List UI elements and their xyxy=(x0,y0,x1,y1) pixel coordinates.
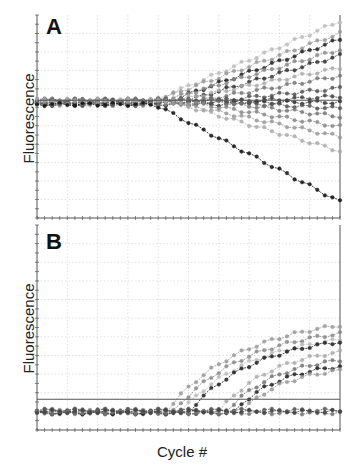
panel-b-y-axis-label: Fluorescence xyxy=(20,279,37,379)
panel-a-y-axis-label: Fluorescence xyxy=(20,69,37,169)
panel-b-plot xyxy=(35,225,342,432)
panel-a-label: A xyxy=(46,14,62,40)
x-axis-label: Cycle # xyxy=(157,443,207,460)
panel-a-plot xyxy=(35,15,342,220)
panel-a-grid xyxy=(37,15,340,218)
panel-b-label: B xyxy=(46,229,62,255)
